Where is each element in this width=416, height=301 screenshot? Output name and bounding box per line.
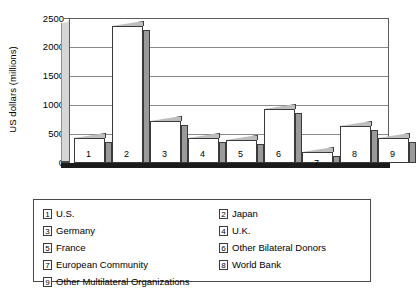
bar-1-top: [74, 133, 106, 138]
plot-area: [69, 18, 389, 164]
legend-item-3[interactable]: 3 Germany: [43, 225, 95, 236]
legend-item-2[interactable]: 2 Japan: [219, 208, 258, 219]
y-axis-title-text: US dollars (millions): [7, 46, 18, 133]
bar-6-side: [295, 113, 302, 163]
legend-key-6: 6: [219, 243, 228, 253]
bar-label-2: 2: [111, 149, 142, 159]
legend-label-5: France: [56, 242, 86, 253]
legend-key-9: 9: [43, 277, 52, 287]
bar-label-1: 1: [73, 149, 104, 159]
bar-label-8: 8: [339, 149, 370, 159]
legend-key-8: 8: [219, 260, 228, 270]
bar-2-top: [112, 21, 144, 26]
legend-key-5: 5: [43, 243, 52, 253]
legend-item-6[interactable]: 6 Other Bilateral Donors: [219, 242, 326, 253]
bar-1[interactable]: [74, 18, 105, 163]
bar-2-front: [112, 26, 143, 163]
bar-label-3: 3: [149, 149, 180, 159]
y-axis-title: US dollars (millions): [4, 24, 20, 154]
bar-9[interactable]: [378, 18, 409, 163]
bar-label-9: 9: [377, 149, 408, 159]
legend-key-4: 4: [219, 226, 228, 236]
bar-6[interactable]: [264, 18, 295, 163]
legend-item-8[interactable]: 8 World Bank: [219, 259, 281, 270]
chart-floor: [61, 163, 390, 168]
legend-item-1[interactable]: 1 U.S.: [43, 208, 74, 219]
bar-5[interactable]: [226, 18, 257, 163]
legend-label-2: Japan: [232, 208, 258, 219]
bar-9-side: [409, 142, 416, 163]
bar-3-top: [150, 116, 182, 121]
legend-key-2: 2: [219, 209, 228, 219]
chart-legend: 1 U.S. 2 Japan 3 Germany 4 U.K. 5 France…: [33, 199, 371, 282]
legend-item-7[interactable]: 7 European Community: [43, 259, 148, 270]
legend-key-7: 7: [43, 260, 52, 270]
bar-2[interactable]: [112, 18, 143, 163]
legend-label-6: Other Bilateral Donors: [232, 242, 326, 253]
bar-3[interactable]: [150, 18, 181, 163]
bar-7[interactable]: [302, 18, 333, 163]
legend-item-4[interactable]: 4 U.K.: [219, 225, 250, 236]
legend-item-5[interactable]: 5 France: [43, 242, 86, 253]
bar-2-side: [143, 30, 150, 163]
legend-label-1: U.S.: [56, 208, 74, 219]
y-axis-ticks: 2500 2000 1500 1000 500 0: [20, 0, 64, 190]
legend-label-7: European Community: [56, 259, 148, 270]
y-tick-2500: 2500: [43, 14, 64, 23]
bar-label-6: 6: [263, 149, 294, 159]
legend-label-9: Other Multilateral Organizations: [56, 276, 190, 287]
bar-4[interactable]: [188, 18, 219, 163]
bar-5-top: [226, 135, 258, 140]
bar-label-7: 7: [301, 158, 332, 168]
legend-key-3: 3: [43, 226, 52, 236]
legend-key-1: 1: [43, 209, 52, 219]
bar-4-top: [188, 133, 220, 138]
bar-label-4: 4: [187, 149, 218, 159]
legend-item-9[interactable]: 9 Other Multilateral Organizations: [43, 276, 190, 287]
legend-label-8: World Bank: [232, 259, 281, 270]
bar-chart: US dollars (millions) 2500 2000 1500 100…: [0, 0, 407, 190]
legend-label-4: U.K.: [232, 225, 250, 236]
bar-8[interactable]: [340, 18, 371, 163]
bar-label-5: 5: [225, 149, 256, 159]
legend-label-3: Germany: [56, 225, 95, 236]
